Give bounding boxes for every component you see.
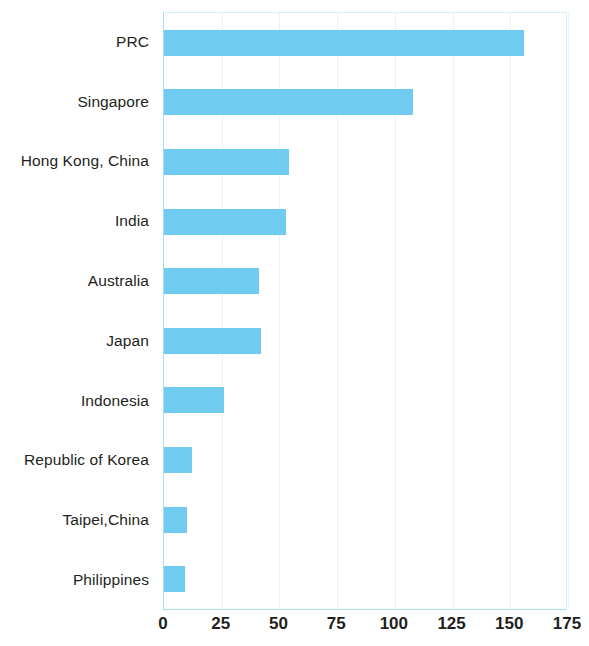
category-label: Philippines — [0, 550, 157, 610]
category-label: Republic of Korea — [0, 431, 157, 491]
bar-row — [164, 549, 566, 609]
category-label: Taipei,China — [0, 490, 157, 550]
category-label: PRC — [0, 12, 157, 72]
gridline — [568, 13, 569, 609]
category-label: Hong Kong, China — [0, 132, 157, 192]
x-tick-label: 125 — [437, 614, 465, 634]
category-label: India — [0, 191, 157, 251]
category-label: Australia — [0, 251, 157, 311]
bar-row — [164, 371, 566, 431]
bar-row — [164, 73, 566, 133]
bar — [164, 387, 224, 413]
bar — [164, 507, 187, 533]
category-label: Japan — [0, 311, 157, 371]
x-tick-label: 100 — [380, 614, 408, 634]
plot-area — [163, 12, 567, 610]
bar-row — [164, 490, 566, 550]
bar — [164, 268, 259, 294]
bar — [164, 30, 524, 56]
bar-row — [164, 13, 566, 73]
bar — [164, 447, 192, 473]
bar-chart: PRCSingaporeHong Kong, ChinaIndiaAustral… — [0, 0, 589, 646]
x-tick-label: 175 — [553, 614, 581, 634]
x-tick-label: 0 — [158, 614, 167, 634]
bar-row — [164, 251, 566, 311]
x-tick-label: 75 — [327, 614, 346, 634]
y-axis-category-labels: PRCSingaporeHong Kong, ChinaIndiaAustral… — [0, 12, 157, 610]
x-tick-label: 150 — [495, 614, 523, 634]
category-label: Singapore — [0, 72, 157, 132]
bars-layer — [164, 13, 566, 609]
bar — [164, 89, 413, 115]
x-axis-tick-labels: 0255075100125150175 — [163, 614, 567, 646]
bar-row — [164, 132, 566, 192]
x-tick-label: 50 — [269, 614, 288, 634]
x-tick-label: 25 — [211, 614, 230, 634]
bar — [164, 209, 286, 235]
bar — [164, 149, 289, 175]
bar-row — [164, 311, 566, 371]
category-label: Indonesia — [0, 371, 157, 431]
bar — [164, 566, 185, 592]
bar-row — [164, 192, 566, 252]
bar — [164, 328, 261, 354]
bar-row — [164, 430, 566, 490]
